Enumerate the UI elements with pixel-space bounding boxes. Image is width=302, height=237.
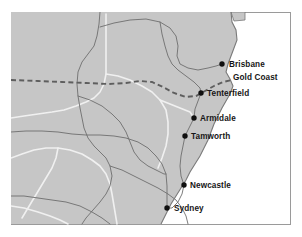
city-gold-coast[interactable]: Gold Coast [233,73,278,82]
city-label: Newcastle [190,181,231,190]
city-label: Tenterfield [207,89,249,98]
city-marker-dot-icon[interactable] [181,182,186,187]
city-label: Gold Coast [233,73,278,82]
city-label: Brisbane [229,60,265,69]
map-figure: BrisbaneGold CoastTenterfieldArmidaleTam… [0,0,302,237]
city-label: Sydney [174,204,204,213]
city-marker-dot-icon[interactable] [182,133,187,138]
city-marker-dot-icon[interactable] [191,115,196,120]
city-label: Armidale [200,114,236,123]
city-marker-dot-icon[interactable] [164,205,169,210]
city-marker-dot-icon[interactable] [219,61,224,66]
city-marker-dot-icon[interactable] [198,90,203,95]
city-label: Tamworth [191,132,230,141]
map-canvas[interactable]: BrisbaneGold CoastTenterfieldArmidaleTam… [0,0,302,237]
